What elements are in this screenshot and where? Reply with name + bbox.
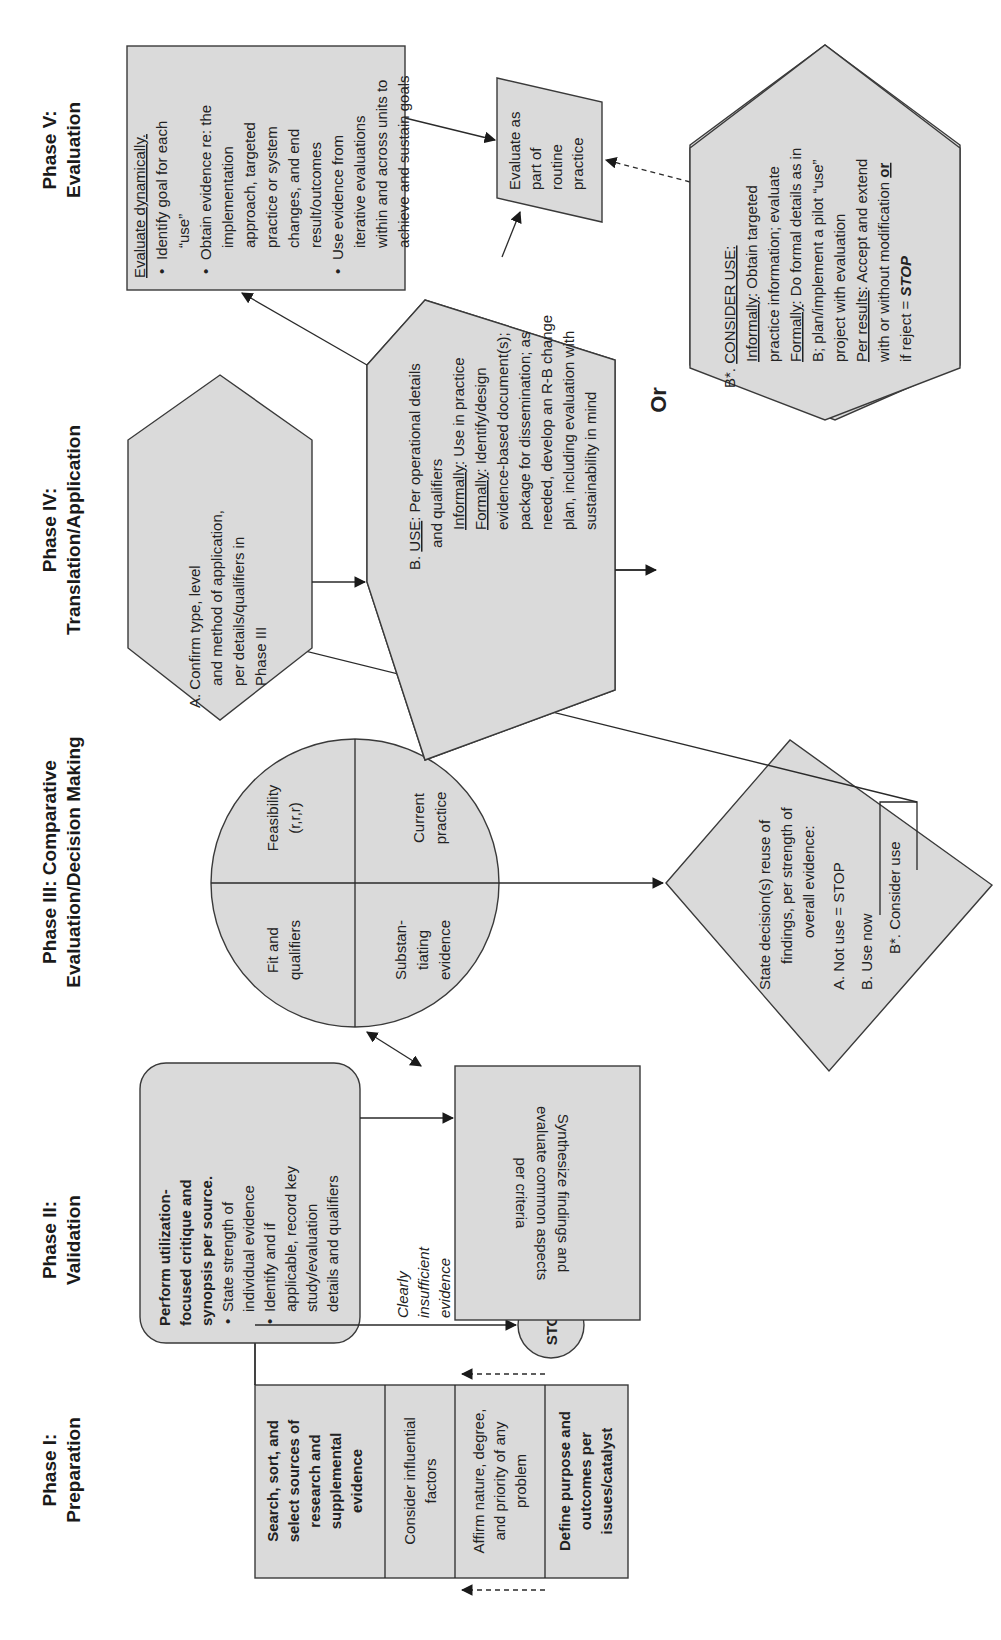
hexagon-a-text: per details/qualifiers in [230, 537, 247, 686]
hexagon-a-text: A. Confirm type, level [186, 565, 203, 708]
insufficient-evidence-label: Clearly insufficient evidence [394, 1246, 453, 1318]
evaluate-bullet: within and across units to [373, 80, 390, 249]
hexagon-bstar-informally: Informally: Obtain targeted [743, 185, 760, 362]
phase-5-label: Phase V: Evaluation [39, 102, 84, 198]
quadrant-text: Current [410, 792, 427, 843]
hexagon-bstar-text: practice information; evaluate [765, 166, 782, 362]
dashed-arrow-bstar-to-routine [606, 160, 690, 182]
validation-bullet: State strength of [219, 1201, 236, 1312]
routine-text: routine [548, 144, 565, 190]
decision-option-consider-use: B*. Consider use [886, 841, 903, 954]
hexagon-b-text: sustainability in mind [582, 392, 599, 530]
hexagon-b-heading: B. USE: Per operational details [406, 363, 423, 570]
hexagon-bstar-text: with or without modification or [875, 163, 892, 363]
quadrant-text: practice [432, 792, 449, 845]
hexagon-a-text: and method of application, [208, 510, 225, 686]
decision-text: State decision(s) reuse of [756, 819, 773, 990]
phase-4-title: Phase IV: [39, 488, 60, 573]
bullet-icon: • [153, 269, 170, 274]
hexagon-a: A. Confirm type, level and method of app… [128, 375, 312, 720]
or-label: Or [646, 387, 671, 413]
decision-option-use-now: B. Use now [858, 913, 875, 990]
label-text: Clearly [394, 1270, 411, 1318]
decision-text: findings, per strength of [778, 806, 795, 964]
bullet-icon: • [261, 1319, 278, 1324]
criteria-circle: Feasibility (r,r,r) Current practice Fit… [211, 739, 499, 1027]
hexagon-bstar-formally: Formally: Do formal details as in [787, 148, 804, 362]
hexagon-bstar-results: Per results: Accept and extend [853, 159, 870, 362]
hexagon-b-text: and qualifiers [428, 459, 445, 548]
validation-bullet: study/evaluation [303, 1204, 320, 1312]
hexagon-bstar-text: project with evaluation [831, 214, 848, 362]
phase-1-title: Phase I: [39, 1434, 60, 1507]
validation-bullet: Identify and if [261, 1222, 278, 1312]
label-text: insufficient [415, 1246, 432, 1318]
arrow-evaluate-to-routine [405, 118, 495, 140]
evaluate-box: Evaluate dynamically. • Identify goal fo… [127, 46, 412, 290]
hexagon-b: B. USE: Per operational details and qual… [367, 300, 615, 760]
evaluate-bullet: achieve and sustain goals [395, 75, 412, 248]
evaluate-bullet: approach, targeted [241, 122, 258, 248]
step-text: select sources of [285, 1419, 302, 1543]
step-text: outcomes per [577, 1432, 594, 1531]
routine-text: practice [569, 137, 586, 190]
hexagon-bstar: B*. CONSIDER USE: Informally: Obtain tar… [690, 45, 960, 420]
step-text: Search, sort, and [264, 1420, 281, 1542]
validation-bullet: details and qualifiers [324, 1175, 341, 1312]
preparation-stack: Search, sort, and select sources of rese… [255, 1385, 628, 1578]
validation-title: synopsis per source. [198, 1176, 215, 1326]
phase-3-title: Phase III: Comparative [39, 760, 60, 964]
phase-3-subtitle: Evaluation/Decision Making [63, 736, 84, 987]
synthesize-text: per criteria [513, 1158, 530, 1230]
quadrant-text: qualifiers [286, 920, 303, 980]
phase-2-title: Phase II: [39, 1201, 60, 1279]
phase-4-label: Phase IV: Translation/Application [39, 425, 84, 635]
step-text: issues/catalyst [598, 1428, 615, 1535]
synthesize-box: Synthesize findings and evaluate common … [455, 1066, 640, 1320]
routine-text: Evaluate as [506, 112, 523, 190]
evaluate-bullet: iterative evaluations [351, 115, 368, 248]
stetler-model-flowchart: Phase I: Preparation Phase II: Validatio… [0, 0, 1001, 1640]
validation-box: Perform utilization- focused critique an… [140, 1063, 360, 1343]
hexagon-bstar-heading: B*. CONSIDER USE: [721, 245, 738, 388]
evaluate-bullet: implementation [219, 146, 236, 248]
bullet-icon: • [219, 1319, 236, 1324]
quadrant-text: Fit and [264, 927, 281, 973]
evaluate-bullet: Use evidence from [329, 135, 346, 260]
evaluate-bullet: result/outcomes [307, 142, 324, 248]
arrow-b-to-routine [502, 212, 520, 257]
bullet-icon: • [197, 269, 214, 274]
hexagon-a-text: Phase III [252, 627, 269, 686]
step-text: and priority of any [491, 1421, 508, 1541]
phase-2-label: Phase II: Validation [39, 1195, 84, 1285]
bullet-icon: • [329, 269, 346, 274]
step-define-purpose: Define purpose and outcomes per issues/c… [556, 1411, 615, 1551]
step-text: supplemental [327, 1433, 344, 1530]
hexagon-b-outline [367, 300, 615, 760]
evaluate-bullet: changes, and end [285, 129, 302, 248]
arrow-b-to-evaluate [242, 293, 367, 365]
evaluate-bullet: Obtain evidence re: the [197, 105, 214, 260]
step-text: research and [306, 1434, 323, 1527]
hexagon-bstar-text: B; plan/implement a pilot “use” [809, 159, 826, 362]
quadrant-text: Substan- [392, 920, 409, 980]
quadrant-text: tiating [414, 930, 431, 970]
quadrant-text: Feasibility [264, 784, 281, 851]
phase-4-subtitle: Translation/Application [63, 425, 84, 635]
label-text: evidence [436, 1258, 453, 1318]
synthesize-text: evaluate common aspects [534, 1106, 551, 1280]
quadrant-text: evidence [436, 920, 453, 980]
hexagon-b-text: needed, develop an R-B change [538, 315, 555, 530]
step-text: problem [512, 1454, 529, 1508]
evaluate-bullet: practice or system [263, 126, 280, 248]
hexagon-bstar-text: if reject = STOP [897, 255, 914, 362]
phase-1-subtitle: Preparation [63, 1417, 84, 1523]
validation-bullet: individual evidence [240, 1185, 257, 1312]
decision-option-not-use: A. Not use = STOP [830, 862, 847, 990]
evaluate-bullet: “use” [175, 214, 192, 248]
step-text: evidence [348, 1449, 365, 1513]
phase-2-subtitle: Validation [63, 1195, 84, 1285]
routine-practice-box: Evaluate as part of routine practice [497, 78, 602, 222]
phase-5-title: Phase V: [39, 110, 60, 189]
hexagon-b-text: plan, including evaluation with [560, 331, 577, 530]
